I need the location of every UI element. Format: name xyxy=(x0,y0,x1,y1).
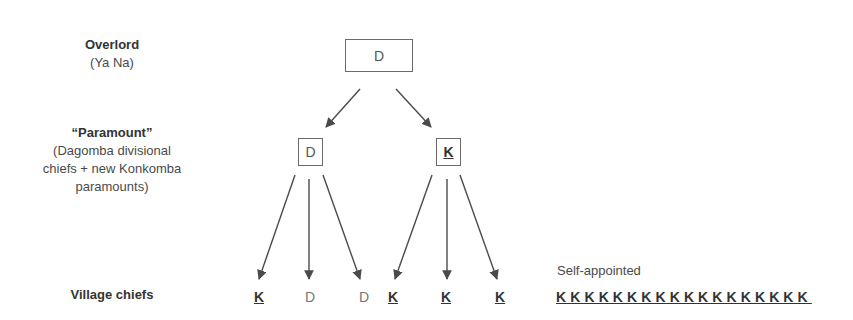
village-chief-5: K xyxy=(441,289,451,305)
node-paramount-konkomba-letter: K xyxy=(443,144,453,160)
village-chief-4: K xyxy=(388,289,398,305)
arrow-midleft-to-village-3 xyxy=(323,175,360,279)
arrow-midleft-to-village-1 xyxy=(259,175,295,279)
node-overlord-letter: D xyxy=(374,48,384,64)
arrow-top-to-mid-right xyxy=(396,89,431,127)
node-paramount-dagomba-box: D xyxy=(298,138,323,166)
village-chief-6: K xyxy=(495,289,505,305)
village-chief-3: D xyxy=(359,289,369,305)
village-chief-1: K xyxy=(254,289,264,305)
hierarchy-arrows xyxy=(0,0,853,320)
node-paramount-konkomba-box: K xyxy=(436,138,461,166)
self-appointed-chiefs: KKKKKKKKKKKKKKKKKK xyxy=(556,289,812,305)
arrow-midright-to-village-6 xyxy=(460,175,497,279)
self-appointed-label: Self-appointed xyxy=(557,263,641,278)
arrow-top-to-mid-left xyxy=(326,89,360,127)
node-overlord-box: D xyxy=(345,39,413,72)
village-chief-2: D xyxy=(305,289,315,305)
arrow-midright-to-village-4 xyxy=(395,175,432,279)
node-paramount-dagomba-letter: D xyxy=(305,144,315,160)
